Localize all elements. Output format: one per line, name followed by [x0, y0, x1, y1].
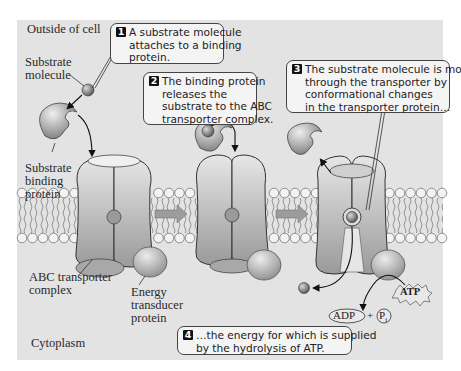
adp-label: ADP: [333, 309, 355, 321]
binding-protein-icon: [288, 123, 323, 155]
step-3-callout: 3The substrate molecule is moved through…: [286, 60, 450, 113]
energy-transducer-label: Energy transducer protein: [131, 286, 183, 325]
step-1-callout: 1A substrate molecule attaches to a bind…: [110, 23, 224, 64]
energy-transducer-icon: [247, 250, 281, 280]
step-number-badge: 2: [149, 76, 159, 86]
binding-protein-icon: [40, 103, 77, 139]
process-arrow-icon: [68, 95, 82, 108]
step-number-badge: 3: [292, 64, 302, 74]
energy-transducer-icon: [133, 247, 167, 277]
plus-sign: +: [367, 309, 373, 321]
process-arrow-icon: [78, 115, 92, 155]
outside-of-cell-label: Outside of cell: [27, 23, 101, 36]
step-number-badge: 4: [183, 330, 193, 340]
substrate-molecule-icon: [299, 283, 310, 294]
step-number-badge: 1: [116, 27, 126, 37]
step-2-callout: 2The binding protein releases the substr…: [143, 72, 257, 125]
cytoplasm-label: Cytoplasm: [31, 337, 85, 350]
substrate-molecule-label: Substrate molecule: [25, 56, 72, 82]
substrate-binding-protein-label: Substrate binding protein: [25, 162, 72, 201]
atp-label: ATP: [400, 286, 420, 297]
abc-transporter-label: ABC transporter complex: [29, 271, 112, 297]
phosphate-label: Pi: [379, 309, 387, 324]
step-4-callout: 4…the energy for which is supplied by th…: [177, 326, 352, 355]
